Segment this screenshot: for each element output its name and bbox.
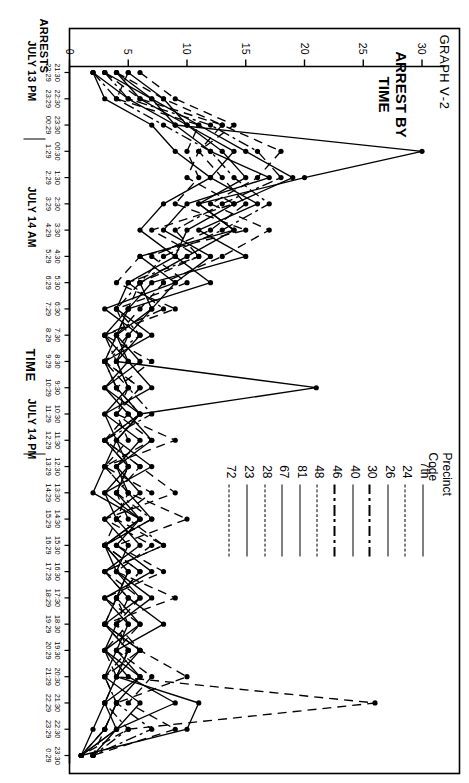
svg-text:13:29: 13:29 — [43, 457, 52, 476]
data-point — [301, 174, 306, 179]
legend-item-label: 7th — [417, 452, 431, 478]
svg-text:11:30: 11:30 — [52, 431, 61, 449]
svg-text:22:29: 22:29 — [43, 63, 52, 82]
data-point — [231, 148, 236, 153]
data-point — [196, 227, 201, 232]
svg-text:12:29: 12:29 — [43, 431, 52, 450]
svg-text:7:29: 7:29 — [43, 301, 52, 315]
svg-text:19:29: 19:29 — [43, 614, 52, 633]
data-point — [113, 385, 118, 390]
legend-line-swatch — [352, 484, 353, 556]
data-point — [149, 280, 154, 285]
svg-text:14:29: 14:29 — [43, 483, 52, 502]
legend-item-label: 28 — [259, 452, 273, 478]
legend-item-label: 72 — [223, 452, 237, 478]
svg-text:17:30: 17:30 — [52, 588, 61, 607]
svg-text:8:29: 8:29 — [43, 327, 52, 341]
data-point — [172, 201, 177, 206]
legend-line-swatch — [422, 484, 423, 556]
data-point — [102, 306, 107, 311]
x-axis-tick-label: 9:3010:29 — [43, 378, 61, 397]
data-point — [219, 227, 224, 232]
x-axis-tick-label: 4:305:29 — [43, 249, 61, 263]
x-axis-tick-label: 21:3022:29 — [43, 63, 61, 82]
y-axis-tick-label: 15 — [239, 42, 251, 54]
data-point — [149, 227, 154, 232]
svg-text:23:29: 23:29 — [43, 89, 52, 108]
data-point — [219, 122, 224, 127]
data-point — [125, 69, 130, 74]
x-axis-tick-label: 13:3014:29 — [43, 483, 61, 502]
data-point — [278, 148, 283, 153]
legend-item-label: 46 — [329, 452, 343, 478]
x-axis-tick-label: 18:3019:29 — [43, 614, 61, 633]
svg-text:17:29: 17:29 — [43, 562, 52, 581]
svg-text:6:29: 6:29 — [43, 275, 52, 289]
svg-text:22:30: 22:30 — [52, 89, 61, 108]
data-point — [102, 69, 107, 74]
data-point — [243, 227, 248, 232]
legend-line-swatch — [246, 484, 247, 556]
data-point — [125, 280, 130, 285]
svg-text:21:30: 21:30 — [52, 63, 61, 82]
svg-text:2:30: 2:30 — [52, 196, 61, 210]
legend-line-swatch — [333, 484, 335, 556]
legend-line-swatch — [387, 484, 388, 556]
x-axis-tick-label: 16:3017:29 — [43, 562, 61, 581]
plot-area: 05101520253021:3022:2922:3023:2923:3000:… — [0, 0, 469, 783]
x-axis-tick-label: 3:304:29 — [43, 222, 61, 236]
legend-item-label: 30 — [364, 452, 378, 478]
x-axis-tick-label: 22:3023:29 — [43, 719, 61, 738]
svg-text:23:30: 23:30 — [52, 115, 61, 134]
data-point — [172, 96, 177, 101]
x-axis-tick-label: 12:3013:29 — [43, 457, 61, 476]
series-line-7th — [81, 72, 422, 755]
y-axis-tick-label: 0 — [63, 48, 75, 54]
figure-page: GRAPH Ⅴ-2 ARREST BY TIME ARRESTS TIME JU… — [0, 0, 469, 783]
x-axis-tick-label: 23:3000:29 — [43, 115, 61, 134]
data-point — [149, 122, 154, 127]
svg-text:15:29: 15:29 — [43, 509, 52, 528]
data-point — [207, 122, 212, 127]
data-point — [219, 201, 224, 206]
x-axis-tick-label: 11:3012:29 — [43, 431, 61, 450]
legend-item-label: 67 — [276, 452, 290, 478]
data-point — [160, 569, 165, 574]
svg-text:3:30: 3:30 — [52, 222, 61, 236]
legend-line-swatch — [404, 484, 405, 556]
data-point — [113, 69, 118, 74]
data-point — [231, 174, 236, 179]
svg-text:15:30: 15:30 — [52, 536, 61, 555]
series-line-67 — [81, 72, 269, 755]
legend-item-label: 81 — [294, 452, 308, 478]
x-axis-tick-label: 14:3015:29 — [43, 509, 61, 528]
x-axis-tick-label: 17:3018:29 — [43, 588, 61, 607]
data-point — [207, 227, 212, 232]
data-point — [419, 148, 424, 153]
svg-text:4:30: 4:30 — [52, 249, 61, 263]
data-point — [137, 280, 142, 285]
data-point — [125, 516, 130, 521]
svg-text:20:29: 20:29 — [43, 641, 52, 660]
svg-text:10:30: 10:30 — [52, 404, 61, 423]
x-axis-tick-label: 10:3011:29 — [43, 404, 61, 423]
legend-line-swatch — [264, 484, 265, 556]
data-point — [184, 674, 189, 679]
data-point — [196, 201, 201, 206]
x-axis-tick-label: 22:3023:29 — [43, 89, 61, 108]
svg-text:12:30: 12:30 — [52, 457, 61, 476]
y-axis-tick-label: 10 — [181, 42, 193, 54]
legend-item-label: 26 — [382, 452, 396, 478]
x-axis-tick-label: 7:308:29 — [43, 327, 61, 341]
x-axis-tick-label: 15:3016:29 — [43, 536, 61, 555]
x-axis-tick-label: 23:300:29 — [43, 746, 61, 765]
data-point — [254, 148, 259, 153]
data-point — [372, 700, 377, 705]
x-axis-tick-label: 1:302:29 — [43, 170, 61, 184]
x-axis-tick-label: 20:3021:29 — [43, 667, 61, 686]
svg-text:3:29: 3:29 — [43, 196, 52, 210]
svg-text:21:30: 21:30 — [52, 693, 61, 712]
data-point — [196, 174, 201, 179]
data-point — [90, 69, 95, 74]
svg-text:18:29: 18:29 — [43, 588, 52, 607]
